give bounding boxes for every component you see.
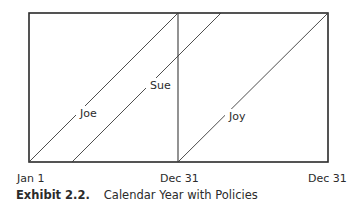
axis-label-1: Dec 31 [160, 172, 199, 185]
axis-label-2: Dec 31 [308, 172, 347, 185]
policy-label-sue: Sue [150, 79, 171, 92]
policy-labels: JoeSueJoy [76, 78, 253, 124]
exhibit-title: Calendar Year with Policies [104, 188, 258, 202]
policy-label-joy: Joy [228, 110, 246, 123]
exhibit-caption: Exhibit 2.2.Calendar Year with Policies [16, 188, 258, 202]
policy-label-joe: Joe [79, 107, 97, 120]
exhibit-number: Exhibit 2.2. [16, 188, 90, 202]
axis-labels: Jan 1Dec 31Dec 31 [16, 172, 347, 185]
policy-line-joy [178, 13, 328, 162]
calendar-year-diagram: JoeSueJoy Jan 1Dec 31Dec 31 [0, 0, 358, 206]
axis-label-0: Jan 1 [16, 172, 44, 185]
